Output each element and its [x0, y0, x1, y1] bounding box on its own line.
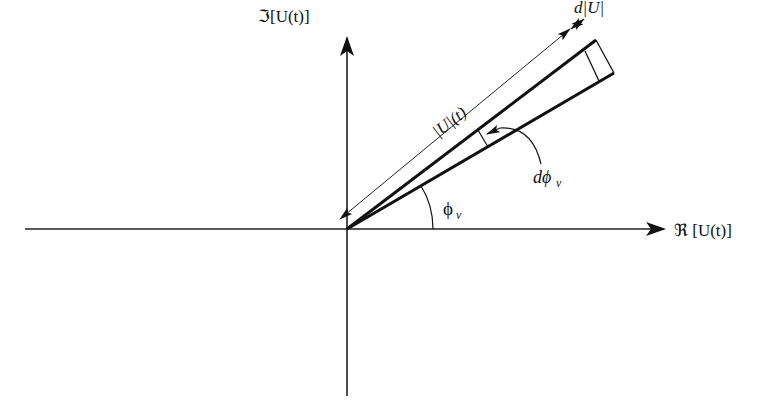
phase-increment-symbol: dϕ	[533, 167, 551, 187]
magnitude-label: |U|(t)	[429, 103, 471, 141]
phasor-lower-line	[347, 73, 614, 229]
magnitude-increment-arrow	[571, 19, 584, 29]
phasor-upper-line	[347, 40, 596, 229]
real-axis-label: ℜ [U(t)]	[674, 221, 732, 240]
imaginary-axis-label: ℑ[U(t)]	[258, 7, 310, 26]
phase-increment-arrow	[487, 128, 541, 164]
phase-arc	[421, 186, 433, 229]
dphi-chord	[478, 130, 488, 147]
phasor-diagram: ℑ[U(t)] ℜ [U(t)] |U|(t) d|U| ϕ v dϕ v	[0, 0, 762, 406]
phase-increment-subscript: v	[556, 176, 562, 190]
phase-label: ϕ v	[443, 198, 462, 222]
phase-subscript: v	[456, 208, 462, 222]
phase-increment-label: dϕ v	[533, 167, 562, 190]
magnitude-increment-label: d|U|	[574, 0, 604, 17]
phase-symbol: ϕ	[443, 198, 453, 219]
